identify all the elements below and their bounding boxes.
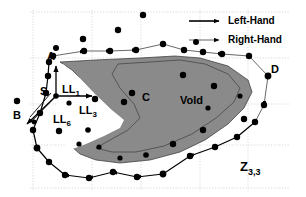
figure-caption-sub: 3,3 (248, 167, 261, 177)
figure-root: A B C D S LL1 LL3 LL6 Vold Z3,3 Left-Han… (0, 0, 306, 197)
legend-label-left-hand: Left-Hand (228, 16, 275, 26)
vector-label-LL1-base: LL (62, 83, 75, 95)
vector-label-LL6-base: LL (53, 113, 66, 125)
point-label-S: S (40, 86, 47, 97)
vector-label-LL1: LL1 (62, 84, 80, 98)
legend-label-right-hand: Right-Hand (228, 35, 282, 45)
legend-arrows (189, 21, 219, 40)
point-label-D: D (271, 64, 279, 75)
vector-label-LL3: LL3 (79, 105, 97, 119)
vector-label-LL3-base: LL (79, 104, 92, 116)
vector-label-LL6-sub: 6 (66, 119, 70, 128)
vector-label-LL3-sub: 3 (92, 110, 96, 119)
vector-label-LL1-sub: 1 (75, 89, 79, 98)
point-label-A: A (47, 51, 55, 62)
figure-caption-label: Z3,3 (240, 160, 260, 177)
vector-label-LL6: LL6 (53, 114, 71, 128)
void-label: Vold (180, 95, 203, 106)
figure-caption-base: Z (240, 159, 248, 174)
point-label-C: C (142, 92, 150, 103)
point-label-B: B (13, 110, 21, 121)
